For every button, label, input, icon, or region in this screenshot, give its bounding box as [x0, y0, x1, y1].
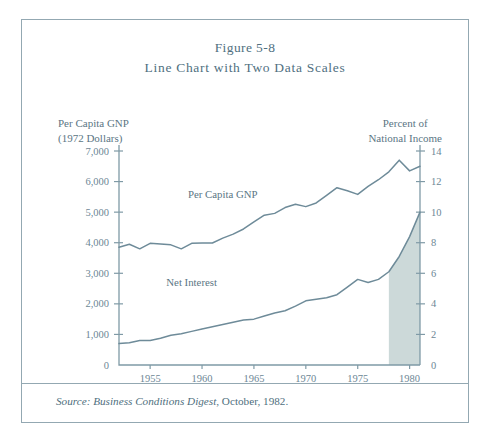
- chart-series-lines: [119, 160, 420, 343]
- left-tick-label: 1,000: [85, 329, 109, 340]
- source-note: Source: Business Conditions Digest, Octo…: [56, 395, 288, 407]
- left-tick-label: 6,000: [85, 176, 109, 187]
- series-inline-label: Net Interest: [166, 276, 217, 288]
- left-tick-label: 5,000: [85, 207, 109, 218]
- source-rest: , October, 1982.: [216, 395, 288, 407]
- series-line: [119, 212, 420, 343]
- source-divider: [22, 383, 468, 384]
- source-publication: Business Conditions Digest: [93, 395, 216, 407]
- left-tick-label: 3,000: [85, 268, 109, 279]
- left-tick-label: 0: [104, 360, 109, 371]
- right-tick-label: 2: [431, 329, 436, 340]
- series-line: [119, 160, 420, 249]
- right-tick-label: 8: [431, 237, 436, 248]
- right-tick-label: 0: [431, 360, 436, 371]
- left-tick-label: 4,000: [85, 237, 109, 248]
- chart-plot-area: 7,0006,0005,0004,0003,0002,0001,00001412…: [22, 20, 470, 424]
- shaded-region-fill: [389, 212, 420, 365]
- figure-frame: Figure 5-8 Line Chart with Two Data Scal…: [21, 19, 469, 423]
- right-tick-label: 4: [431, 298, 437, 309]
- right-tick-label: 6: [431, 268, 436, 279]
- series-inline-label: Per Capita GNP: [188, 188, 258, 200]
- chart-tick-labels: 7,0006,0005,0004,0003,0002,0001,00001412…: [85, 146, 442, 384]
- right-tick-label: 14: [431, 146, 442, 157]
- chart-series-labels: Per Capita GNPNet Interest: [166, 188, 257, 287]
- right-tick-label: 10: [431, 207, 442, 218]
- shaded-region: [389, 212, 420, 365]
- chart-axes: [114, 145, 425, 369]
- left-tick-label: 2,000: [85, 298, 109, 309]
- source-label: Source:: [56, 395, 90, 407]
- left-tick-label: 7,000: [85, 146, 109, 157]
- right-tick-label: 12: [431, 176, 442, 187]
